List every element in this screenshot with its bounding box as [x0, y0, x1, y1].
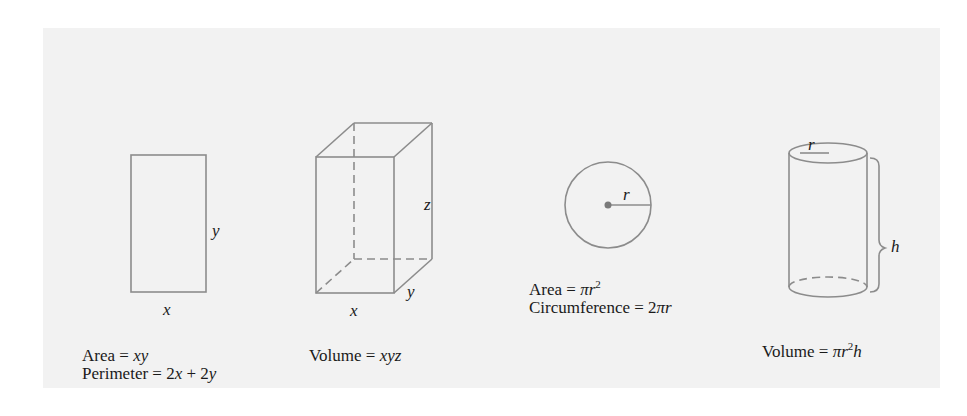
cylinder-label-h: h: [891, 238, 900, 255]
rectangle-perimeter-formula: Perimeter = 2x + 2y: [82, 364, 216, 384]
cylinder-volume-formula: Volume = πr2h: [762, 342, 862, 362]
rectangle-shape: [131, 155, 206, 292]
box-volume-formula: Volume = xyz: [309, 346, 401, 366]
circle-circumference-formula: Circumference = 2πr: [529, 298, 672, 318]
box-label-z: z: [424, 196, 431, 213]
box-shape: [316, 123, 432, 293]
circle-center-dot: [605, 202, 612, 209]
cylinder-shape: [789, 143, 867, 297]
circle-area-formula: Area = πr2: [529, 280, 601, 300]
rectangle-label-y: y: [212, 222, 220, 239]
circle-label-r: r: [623, 186, 630, 203]
box-label-y: y: [407, 283, 415, 300]
height-brace: [870, 158, 885, 292]
rectangle-label-x: x: [163, 301, 171, 318]
rectangle-area-formula: Area = xy: [82, 346, 148, 366]
cylinder-label-r: r: [808, 136, 815, 153]
box-label-x: x: [350, 302, 358, 319]
